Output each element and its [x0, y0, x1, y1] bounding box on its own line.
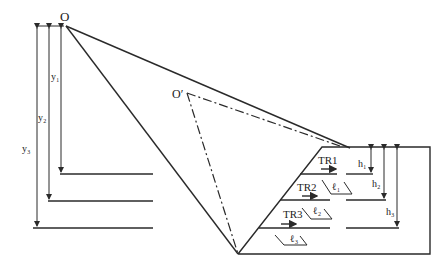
- label-TR1: TR1: [318, 154, 338, 166]
- label-l2: ℓ₂: [313, 205, 321, 216]
- label-h2: h₂: [372, 178, 381, 189]
- label-O: O: [60, 9, 69, 24]
- label-y3: y₃: [22, 143, 31, 154]
- label-TR2: TR2: [297, 181, 317, 193]
- level-lines-left: [33, 174, 153, 228]
- label-y1: y₁: [51, 71, 60, 82]
- rays-from-O: [66, 26, 350, 254]
- label-TR3: TR3: [283, 208, 303, 220]
- left-dimensions: [37, 26, 64, 226]
- label-y2: y₂: [38, 112, 47, 123]
- label-l1: ℓ₁: [332, 181, 340, 192]
- diagram-canvas: O O′ y₁ y₂ y₃ h₁ h₂ h₃ TR1 TR2 TR3 ℓ₁ ℓ₂…: [0, 0, 448, 269]
- label-h1: h₁: [358, 158, 367, 169]
- label-O-prime: O′: [172, 87, 184, 101]
- label-l3: ℓ₃: [290, 233, 298, 244]
- retaining-wall-diagram: O O′ y₁ y₂ y₃ h₁ h₂ h₃ TR1 TR2 TR3 ℓ₁ ℓ₂…: [0, 0, 448, 269]
- label-h3: h₃: [386, 206, 395, 217]
